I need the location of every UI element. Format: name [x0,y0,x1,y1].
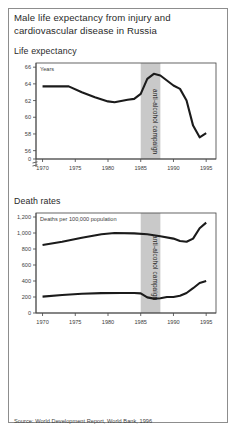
y-tick-label: 62 [25,98,31,104]
y-tick-label: 800 [22,246,31,252]
axis-break-upper [33,162,38,163]
figure-title: Male life expectancy from injury and car… [14,12,226,37]
x-tick-label: 1970 [36,165,48,171]
anti-alcohol-campaign-label: anti-alcohol campaign [151,235,159,301]
anti-alcohol-campaign-label: anti-alcohol campaign [151,89,159,155]
y-tick-label: 1,000 [17,230,31,236]
y-tick-label: 200 [22,294,31,300]
x-tick-label: 1990 [167,319,179,325]
y-tick-label: 66 [25,64,31,70]
x-tick-label: 1995 [200,165,212,171]
series-line [43,74,207,137]
y-tick-label: 0 [28,310,31,316]
y-tick-label: 1,200 [17,214,31,220]
panel-heading-death-rates: Death rates [14,196,226,206]
series-line [43,223,207,245]
y-tick-label: 64 [25,81,31,87]
y-tick-label: 600 [22,262,31,268]
x-tick-label: 1980 [102,165,114,171]
series-line [43,281,207,299]
axis-unit-label: Years [40,66,54,72]
x-tick-label: 1990 [167,165,179,171]
figure-content: Male life expectancy from injury and car… [0,0,236,431]
x-tick-label: 1975 [69,165,81,171]
x-tick-label: 1980 [102,319,114,325]
figure-root: Male life expectancy from injury and car… [0,0,236,431]
y-tick-label: 60 [25,114,31,120]
chart-life-expectancy: anti-alcohol campaignYears56586062646601… [10,59,226,187]
x-tick-label: 1970 [36,319,48,325]
x-tick-label: 1995 [200,319,212,325]
y-tick-label-zero: 0 [28,156,31,162]
chart-life-expectancy-svg: anti-alcohol campaignYears56586062646601… [10,59,226,187]
chart-death-rates: anti-alcohol campaignDeaths per 100,000 … [10,209,226,342]
source-note: Source: World Development Report, World … [14,418,152,424]
plot-frame [36,213,216,313]
axis-unit-label: Deaths per 100,000 population [40,216,117,222]
x-tick-label: 1985 [135,319,147,325]
y-tick-label: 400 [22,278,31,284]
panel-heading-life-expectancy: Life expectancy [14,46,226,56]
y-tick-label: 56 [25,148,31,154]
y-tick-label: 58 [25,131,31,137]
x-tick-label: 1985 [135,165,147,171]
chart-death-rates-svg: anti-alcohol campaignDeaths per 100,000 … [10,209,226,342]
x-tick-label: 1975 [69,319,81,325]
